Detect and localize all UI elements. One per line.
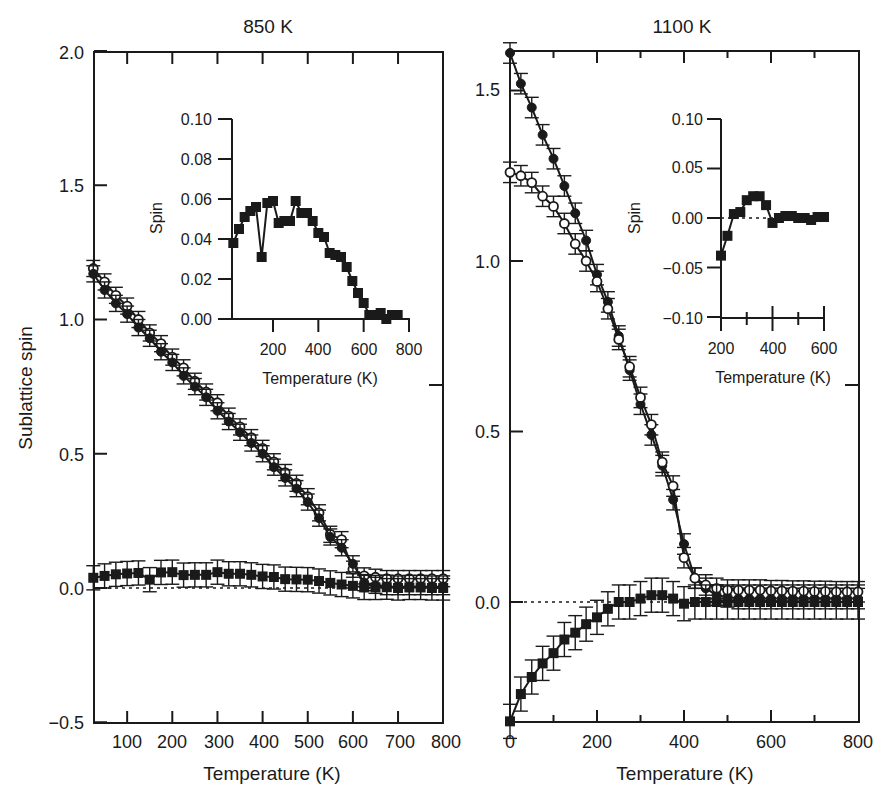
filled-square-marker bbox=[799, 597, 809, 607]
inset-square-marker bbox=[251, 202, 261, 212]
x-tick-label: 200 bbox=[582, 732, 612, 752]
y-tick-labels: 0.0 0.5 1.0 1.5 bbox=[475, 80, 500, 613]
x-tick-label: 600 bbox=[338, 732, 368, 752]
filled-square-marker bbox=[269, 572, 279, 582]
plot-area bbox=[503, 43, 865, 739]
y-tick-label: 0.5 bbox=[475, 422, 500, 442]
inset-x-tick-label: 600 bbox=[811, 340, 838, 357]
filled-square-marker bbox=[246, 570, 256, 580]
inset-square-marker bbox=[308, 216, 318, 226]
filled-circle-marker bbox=[89, 269, 98, 278]
filled-square-marker bbox=[280, 574, 290, 584]
filled-circle-marker bbox=[145, 334, 154, 343]
y-tick-label: 1.5 bbox=[475, 80, 500, 100]
filled-circle-marker bbox=[269, 463, 278, 472]
open-circle-marker bbox=[549, 202, 558, 211]
filled-square-marker bbox=[235, 569, 245, 579]
filled-square-marker bbox=[393, 583, 403, 593]
filled-square-marker bbox=[679, 599, 689, 609]
inset-x-tick-label: 600 bbox=[351, 341, 378, 358]
open-circle-marker bbox=[658, 458, 667, 467]
filled-square-marker bbox=[592, 612, 602, 622]
open-circle-marker bbox=[603, 304, 612, 313]
filled-square-marker bbox=[603, 604, 613, 614]
filled-circle-marker bbox=[326, 532, 335, 541]
filled-circle-marker bbox=[582, 236, 591, 245]
filled-square-marker bbox=[614, 597, 624, 607]
filled-square-marker bbox=[438, 583, 448, 593]
inset-y-tick-label: −0.10 bbox=[663, 310, 704, 327]
filled-square-marker bbox=[559, 635, 569, 645]
filled-square-marker bbox=[348, 581, 358, 591]
filled-square-marker bbox=[538, 658, 548, 668]
filled-circle-marker bbox=[292, 484, 301, 493]
filled-square-marker bbox=[416, 582, 426, 592]
filled-square-marker bbox=[370, 582, 380, 592]
panel-850k: 850 K Sublattice spin Temperature (K) −0… bbox=[15, 16, 461, 784]
filled-square-marker bbox=[291, 574, 301, 584]
inset-square-marker bbox=[353, 288, 363, 298]
filled-circle-marker bbox=[168, 358, 177, 367]
inset-square-marker bbox=[716, 251, 726, 261]
open-circle-marker bbox=[516, 171, 525, 180]
y-tick-label: 1.0 bbox=[475, 252, 500, 272]
filled-circle-marker bbox=[549, 154, 558, 163]
filled-circle-marker bbox=[247, 439, 256, 448]
open-circle-marker bbox=[625, 362, 634, 371]
inset-y-tick-label: 0.00 bbox=[181, 311, 212, 328]
filled-square-marker bbox=[258, 571, 268, 581]
inset-x-axis-label: Temperature (K) bbox=[715, 369, 831, 386]
open-circle-marker bbox=[636, 393, 645, 402]
inset-plot-area bbox=[218, 119, 410, 332]
inset-square-marker bbox=[359, 298, 369, 308]
filled-square-marker bbox=[505, 716, 515, 726]
inset-square-marker bbox=[819, 212, 829, 222]
filled-square-marker bbox=[723, 597, 733, 607]
filled-square-marker bbox=[853, 597, 863, 607]
filled-square-marker bbox=[156, 567, 166, 577]
filled-square-marker bbox=[179, 570, 189, 580]
inset-square-marker bbox=[761, 200, 771, 210]
x-tick-label: 100 bbox=[112, 732, 142, 752]
filled-square-marker bbox=[570, 628, 580, 638]
filled-square-marker bbox=[88, 573, 98, 583]
inset-square-marker bbox=[735, 207, 745, 217]
open-circle-marker bbox=[582, 257, 591, 266]
x-tick-labels: 0 200 400 600 800 bbox=[505, 732, 873, 752]
filled-square-marker bbox=[427, 583, 437, 593]
filled-square-marker bbox=[549, 648, 559, 658]
filled-circle-marker bbox=[516, 79, 525, 88]
inset-x-tick-label: 200 bbox=[260, 341, 287, 358]
series-open-circle bbox=[86, 260, 450, 586]
inset-y-axis-label: Spin bbox=[148, 202, 165, 234]
x-axis-label: Temperature (K) bbox=[616, 763, 753, 784]
y-tick-label: 0.5 bbox=[59, 445, 84, 465]
filled-square-marker bbox=[646, 590, 656, 600]
filled-square-marker bbox=[133, 568, 143, 578]
filled-square-marker bbox=[100, 571, 110, 581]
inset-x-tick-label: 800 bbox=[396, 341, 423, 358]
x-tick-label: 800 bbox=[843, 732, 873, 752]
inset-square-marker bbox=[234, 224, 244, 234]
inset-square-marker bbox=[347, 276, 357, 286]
filled-square-marker bbox=[766, 597, 776, 607]
inset-square-marker bbox=[393, 310, 403, 320]
y-tick-label: −0.5 bbox=[48, 713, 84, 733]
filled-circle-marker bbox=[111, 299, 120, 308]
open-circle-marker bbox=[571, 239, 580, 248]
x-tick-label: 500 bbox=[294, 732, 324, 752]
inset-y-tick-label: 0.06 bbox=[181, 191, 212, 208]
inset-plot: Spin Temperature (K) −0.10 −0.05 0.00 0.… bbox=[626, 111, 837, 386]
open-circle-marker bbox=[593, 277, 602, 286]
filled-circle-marker bbox=[337, 543, 346, 552]
filled-square-marker bbox=[777, 597, 787, 607]
filled-circle-marker bbox=[571, 209, 580, 218]
y-tick-label: 2.0 bbox=[59, 43, 84, 63]
plot-area bbox=[86, 51, 450, 723]
inset-y-tick-label: 0.04 bbox=[181, 231, 212, 248]
filled-square-marker bbox=[788, 597, 798, 607]
filled-circle-marker bbox=[538, 130, 547, 139]
filled-circle-marker bbox=[236, 428, 245, 437]
filled-square-marker bbox=[212, 567, 222, 577]
filled-circle-marker bbox=[560, 181, 569, 190]
